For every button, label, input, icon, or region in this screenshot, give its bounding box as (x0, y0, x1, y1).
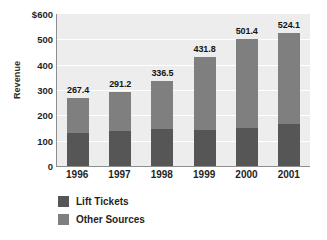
x-axis-tick-1998: 1998 (142, 169, 182, 185)
bar-value-label-2001: 524.1 (278, 20, 300, 30)
x-axis-tick-2000: 2000 (226, 169, 266, 185)
y-axis-tick-500: 500 (20, 34, 53, 45)
legend-swatch-icon (58, 214, 69, 225)
legend-item[interactable]: Other Sources (58, 210, 145, 228)
bar-value-label-1996: 267.4 (67, 85, 89, 95)
bar-segment-lift-tickets-1998[interactable] (151, 129, 173, 166)
bar-segment-lift-tickets-1996[interactable] (67, 133, 89, 166)
x-axis-line (56, 166, 310, 167)
stacked-bar-chart: Revenue 0100200300400500$600 267.4291.23… (0, 0, 327, 240)
x-axis-tick-2001: 2001 (269, 169, 309, 185)
bar-value-label-1998: 336.5 (151, 68, 173, 78)
x-axis-tick-1996: 1996 (57, 169, 97, 185)
x-axis-tick-labels: 199619971998199920002001 (56, 169, 310, 185)
y-axis-tick-400: 400 (20, 59, 53, 70)
bar-segment-other-sources-1996[interactable] (67, 98, 89, 133)
legend-item[interactable]: Lift Tickets (58, 192, 145, 210)
chart-legend: Lift TicketsOther Sources (58, 192, 145, 228)
legend-label: Lift Tickets (76, 196, 129, 207)
y-axis-tick-labels: 0100200300400500$600 (20, 14, 53, 166)
bar-1997[interactable]: 291.2 (109, 14, 131, 166)
x-axis-tick-1997: 1997 (99, 169, 139, 185)
plot-area: 267.4291.2336.5431.8501.4524.1 (56, 14, 310, 166)
bar-2001[interactable]: 524.1 (278, 14, 300, 166)
y-axis-tick-200: 200 (20, 110, 53, 121)
bar-segment-other-sources-1997[interactable] (109, 92, 131, 131)
legend-label: Other Sources (76, 214, 145, 225)
bar-segment-lift-tickets-2001[interactable] (278, 124, 300, 166)
y-axis-tick-0: 0 (20, 161, 53, 172)
bar-segment-other-sources-1999[interactable] (194, 57, 216, 130)
bar-1999[interactable]: 431.8 (194, 14, 216, 166)
bar-value-label-1999: 431.8 (194, 44, 216, 54)
bar-1996[interactable]: 267.4 (67, 14, 89, 166)
y-axis-tick-100: 100 (20, 135, 53, 146)
bar-1998[interactable]: 336.5 (151, 14, 173, 166)
bar-segment-other-sources-2001[interactable] (278, 33, 300, 124)
bar-segment-other-sources-2000[interactable] (236, 39, 258, 128)
bar-segment-lift-tickets-1997[interactable] (109, 131, 131, 166)
y-axis-tick-300: 300 (20, 85, 53, 96)
bar-value-label-1997: 291.2 (109, 79, 131, 89)
bar-group: 267.4291.2336.5431.8501.4524.1 (57, 14, 310, 166)
bar-segment-lift-tickets-1999[interactable] (194, 130, 216, 166)
bar-2000[interactable]: 501.4 (236, 14, 258, 166)
bar-segment-lift-tickets-2000[interactable] (236, 128, 258, 166)
y-axis-tick-600: $600 (20, 9, 53, 20)
legend-swatch-icon (58, 196, 69, 207)
bar-value-label-2000: 501.4 (236, 26, 258, 36)
bar-segment-other-sources-1998[interactable] (151, 81, 173, 129)
x-axis-tick-1999: 1999 (184, 169, 224, 185)
